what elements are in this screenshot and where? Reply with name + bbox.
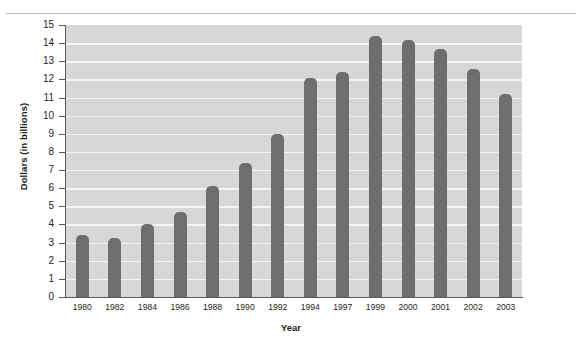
plot-area xyxy=(66,25,522,297)
x-axis-tick-label: 1986 xyxy=(164,302,197,312)
x-axis-tick-label: 1999 xyxy=(359,302,392,312)
x-axis-tick-label: 2002 xyxy=(457,302,490,312)
y-axis-tick xyxy=(59,188,65,189)
y-axis-tick-label: 11 xyxy=(34,92,54,103)
y-axis-tick-label: 6 xyxy=(34,182,54,193)
y-axis-tick xyxy=(59,279,65,280)
bar xyxy=(76,235,89,297)
y-axis-tick xyxy=(59,243,65,244)
y-axis-tick-label: 0 xyxy=(34,291,54,302)
gridline xyxy=(66,152,522,153)
bar xyxy=(239,163,252,297)
bar xyxy=(271,134,284,297)
gridlines xyxy=(66,25,522,297)
gridline xyxy=(66,243,522,244)
gridline xyxy=(66,206,522,207)
y-axis-line xyxy=(65,25,66,298)
y-axis-tick-label: 7 xyxy=(34,164,54,175)
x-axis-title: Year xyxy=(60,322,522,333)
y-axis-tick-label: 3 xyxy=(34,237,54,248)
bar xyxy=(174,212,187,297)
top-divider-rule xyxy=(6,13,576,14)
y-axis-tick xyxy=(59,206,65,207)
y-axis-tick-label: 13 xyxy=(34,55,54,66)
bar xyxy=(141,224,154,297)
y-axis-tick xyxy=(59,297,65,298)
x-axis-tick-label: 1984 xyxy=(131,302,164,312)
gridline xyxy=(66,188,522,189)
y-axis-tick-label: 15 xyxy=(34,19,54,30)
x-axis-tick-label: 2003 xyxy=(489,302,522,312)
y-axis-tick xyxy=(59,79,65,80)
gridline xyxy=(66,224,522,225)
bar xyxy=(369,36,382,297)
bar xyxy=(206,186,219,297)
y-axis-tick xyxy=(59,224,65,225)
bar xyxy=(336,72,349,297)
x-axis-tick-label: 1997 xyxy=(327,302,360,312)
bar xyxy=(304,78,317,297)
bar-chart-figure: Dollars (in billions) 012345678910111213… xyxy=(0,0,582,341)
x-axis-tick-label: 2001 xyxy=(424,302,457,312)
y-axis-tick xyxy=(59,134,65,135)
x-axis-tick-label: 1992 xyxy=(261,302,294,312)
x-axis-tick-label: 1994 xyxy=(294,302,327,312)
x-axis-tick-label: 1988 xyxy=(196,302,229,312)
x-axis-tick-label: 1982 xyxy=(99,302,132,312)
y-axis-tick-label: 4 xyxy=(34,218,54,229)
y-axis-tick-label: 9 xyxy=(34,128,54,139)
gridline xyxy=(66,43,522,44)
x-axis-tick-label: 1980 xyxy=(66,302,99,312)
y-axis-tick-label: 1 xyxy=(34,273,54,284)
x-axis-line xyxy=(65,297,523,298)
y-axis-tick xyxy=(59,152,65,153)
y-axis-tick-label: 2 xyxy=(34,255,54,266)
gridline xyxy=(66,116,522,117)
bar xyxy=(108,238,121,297)
y-axis-tick-label: 5 xyxy=(34,200,54,211)
x-axis-tick-label: 2000 xyxy=(392,302,425,312)
y-axis-tick-label: 14 xyxy=(34,37,54,48)
y-axis-tick-label: 12 xyxy=(34,73,54,84)
bar xyxy=(499,94,512,297)
gridline xyxy=(66,134,522,135)
y-axis-tick xyxy=(59,170,65,171)
y-axis-tick-label: 10 xyxy=(34,110,54,121)
gridline xyxy=(66,61,522,62)
x-axis-tick-label: 1990 xyxy=(229,302,262,312)
gridline xyxy=(66,279,522,280)
gridline xyxy=(66,79,522,80)
gridline xyxy=(66,261,522,262)
bar xyxy=(434,49,447,297)
y-axis-title: Dollars (in billions) xyxy=(18,67,29,227)
y-axis-tick xyxy=(59,43,65,44)
gridline xyxy=(66,98,522,99)
y-axis-tick xyxy=(59,116,65,117)
bar xyxy=(402,40,415,297)
y-axis-tick xyxy=(59,25,65,26)
y-axis-tick xyxy=(59,261,65,262)
bar xyxy=(467,69,480,297)
y-axis-tick xyxy=(59,61,65,62)
y-axis-tick xyxy=(59,98,65,99)
y-axis-tick-label: 8 xyxy=(34,146,54,157)
gridline xyxy=(66,170,522,171)
